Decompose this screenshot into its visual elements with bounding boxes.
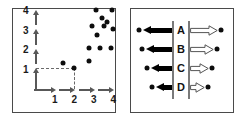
row-label-b: B <box>175 44 187 55</box>
row-label-c: C <box>175 63 187 74</box>
y-axis-segment <box>35 14 37 25</box>
outbound-endpoint-dot-c <box>210 66 215 71</box>
arrow-head <box>143 26 151 34</box>
x-axis-segment <box>79 89 90 91</box>
y-axis-arrowhead <box>33 10 39 15</box>
scatter-point <box>110 8 115 13</box>
y-axis-arrowhead <box>33 49 39 54</box>
arrow-head <box>146 45 154 53</box>
x-axis-arrowhead <box>109 87 114 93</box>
scatter-point <box>110 26 115 31</box>
scatter-point <box>109 46 114 51</box>
scatter-point <box>89 23 94 28</box>
outbound-arrow-d <box>190 82 205 93</box>
y-axis-segment <box>35 53 37 64</box>
separator-line-left <box>172 21 174 99</box>
flow-diagram-area: ABCD <box>131 9 233 112</box>
arrow-head <box>156 83 164 91</box>
scatter-point <box>94 8 99 13</box>
outbound-arrow-a <box>190 25 218 36</box>
y-tick-label-4: 4 <box>23 6 29 16</box>
x-axis-arrowhead <box>90 87 95 93</box>
inbound-arrow-a <box>143 26 172 35</box>
x-axis-segment <box>59 89 70 91</box>
x-tick-label-4: 4 <box>111 95 117 105</box>
dashed-guide-horizontal <box>36 68 74 69</box>
row-label-d: D <box>175 82 187 93</box>
inbound-arrow-d <box>156 83 172 92</box>
scatter-point <box>102 24 107 29</box>
x-tick-label-3: 3 <box>91 95 97 105</box>
inbound-arrow-c <box>151 64 172 73</box>
figure-root: 12341234 ABCD <box>0 0 250 121</box>
outbound-endpoint-dot-a <box>219 28 224 33</box>
x-axis-segment <box>98 89 109 91</box>
flow-diagram-panel: ABCD <box>130 8 234 113</box>
arrow-shaft <box>154 47 172 52</box>
y-tick-label-3: 3 <box>23 26 29 36</box>
inbound-endpoint-dot-c <box>145 66 150 71</box>
scatter-point <box>95 32 100 37</box>
arrow-head <box>151 64 159 72</box>
inbound-arrow-b <box>146 45 172 54</box>
dashed-guide-vertical <box>74 68 75 89</box>
outbound-endpoint-dot-b <box>215 47 220 52</box>
inbound-endpoint-dot-d <box>149 85 154 90</box>
scatter-point <box>87 59 92 64</box>
outbound-endpoint-dot-d <box>206 85 211 90</box>
outbound-arrow-c <box>190 63 209 74</box>
y-tick-label-2: 2 <box>23 45 29 55</box>
outbound-arrow-b <box>190 44 214 55</box>
inbound-endpoint-dot-a <box>136 28 141 33</box>
row-label-a: A <box>175 25 187 36</box>
scatter-plot-area: 12341234 <box>13 9 115 112</box>
inbound-endpoint-dot-b <box>139 47 144 52</box>
arrow-shaft <box>164 85 172 90</box>
arrow-shaft <box>159 66 172 71</box>
scatter-point <box>87 45 92 50</box>
scatter-point <box>61 61 66 66</box>
x-axis-arrowhead <box>51 87 56 93</box>
y-axis-arrowhead <box>33 68 39 73</box>
scatter-point <box>98 46 103 51</box>
scatter-point <box>72 65 77 70</box>
x-tick-label-2: 2 <box>72 95 78 105</box>
y-axis-segment <box>35 73 37 84</box>
x-tick-label-1: 1 <box>52 95 58 105</box>
scatter-plot-panel: 12341234 <box>12 8 116 113</box>
arrow-shaft <box>151 28 172 33</box>
x-axis-segment <box>40 89 51 91</box>
y-axis-segment <box>35 34 37 45</box>
y-tick-label-1: 1 <box>23 65 29 75</box>
y-axis-arrowhead <box>33 29 39 34</box>
